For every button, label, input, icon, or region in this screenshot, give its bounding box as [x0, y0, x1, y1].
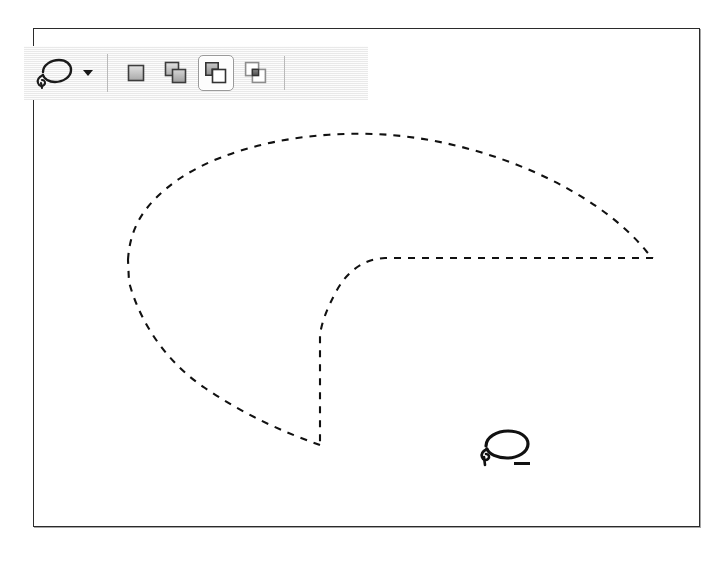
lasso-icon [34, 57, 74, 89]
toolbar-separator-2 [284, 56, 285, 90]
toolbar-separator-1 [107, 54, 108, 92]
intersect-selection-icon [243, 60, 269, 86]
selection-mode-intersect-button[interactable] [238, 55, 274, 91]
subtract-from-selection-icon [203, 60, 229, 86]
selection-mode-group [118, 55, 274, 91]
new-selection-icon [124, 61, 148, 85]
lasso-tool-chooser[interactable] [30, 55, 97, 91]
selection-mode-add-button[interactable] [158, 55, 194, 91]
selection-mode-new-button[interactable] [118, 55, 154, 91]
document-frame [33, 28, 700, 527]
screenshot-root [0, 0, 728, 564]
add-to-selection-icon [163, 60, 189, 86]
chevron-down-icon[interactable] [83, 70, 93, 76]
selection-mode-subtract-button[interactable] [198, 55, 234, 91]
tool-options-bar [24, 46, 368, 100]
